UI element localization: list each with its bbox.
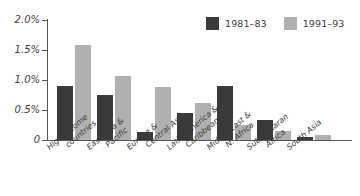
y-tick-mark-3 bbox=[42, 110, 48, 111]
y-tick-mark-1 bbox=[42, 50, 48, 51]
x-axis-label-0: High-incomecountries bbox=[45, 111, 99, 160]
y-tick-mark-0 bbox=[42, 20, 48, 21]
y-tick-mark-2 bbox=[42, 80, 48, 81]
bar-chart: 1981–83 1991–93 2.0%1.5%1.0%0.5%0 High-i… bbox=[0, 0, 360, 196]
y-tick-mark-4 bbox=[42, 140, 48, 141]
x-axis-labels: High-incomecountriesEast Asia &PacificEu… bbox=[0, 0, 360, 196]
